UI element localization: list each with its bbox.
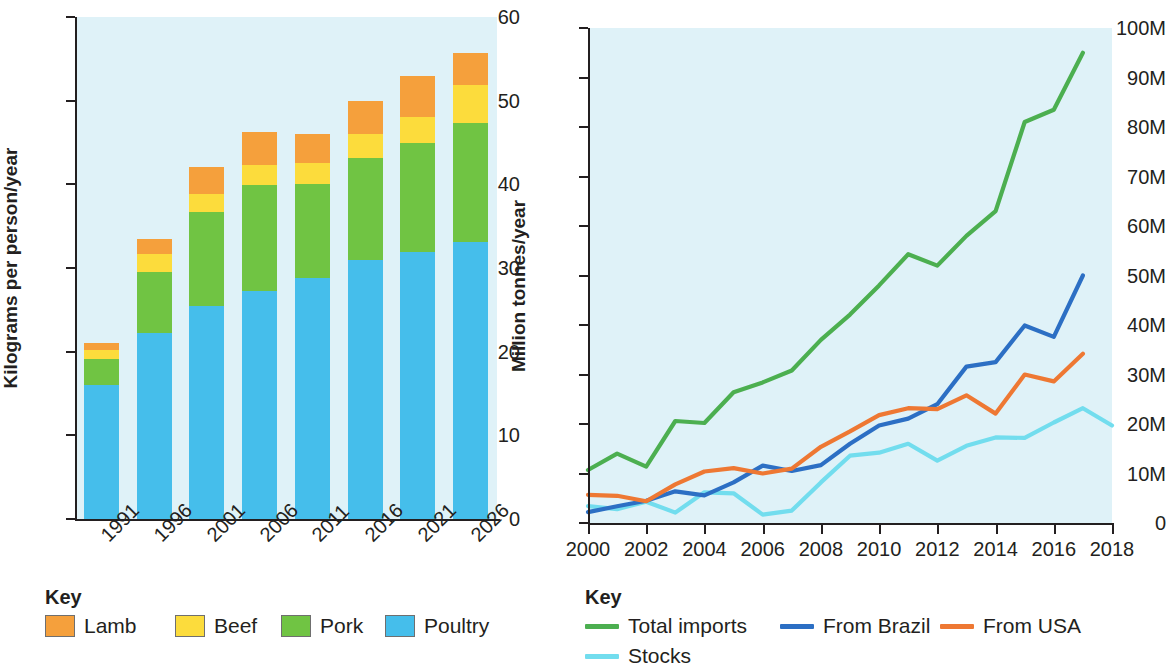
right-y-tick-label: 40M [1095, 315, 1166, 335]
right-x-tick-label: 2012 [915, 539, 960, 559]
right-y-tick [579, 522, 588, 524]
left-y-axis-line [75, 17, 77, 521]
legend-item-pork[interactable]: Pork [281, 614, 363, 638]
legend-item-poultry[interactable]: Poultry [385, 614, 489, 638]
legend-label: Pork [320, 614, 363, 638]
right-y-tick-label: 60M [1095, 216, 1166, 236]
legend-line-icon [585, 624, 619, 629]
bar-segment-lamb [348, 101, 383, 134]
legend-swatch-icon [175, 615, 205, 637]
bar-segment-beef [137, 254, 172, 272]
bar-segment-pork [189, 212, 224, 307]
bar-segment-poultry [400, 252, 435, 519]
right-y-tick [579, 126, 588, 128]
right-y-tick-label: 20M [1095, 414, 1166, 434]
legend-line-icon [780, 624, 814, 629]
bar-segment-beef [400, 117, 435, 143]
right-y-tick [579, 225, 588, 227]
right-x-axis-line [588, 523, 1114, 525]
right-y-axis-title: Million tonnes/year [508, 199, 530, 371]
bar-segment-poultry [84, 385, 119, 519]
legend-swatch-icon [45, 615, 75, 637]
bar-segment-lamb [400, 76, 435, 117]
right-y-tick [579, 324, 588, 326]
right-y-tick-label: 100M [1095, 18, 1166, 38]
right-x-tick-label: 2010 [857, 539, 902, 559]
left-y-tick [66, 16, 75, 18]
right-x-tick [588, 525, 590, 534]
right-y-tick-label: 30M [1095, 365, 1166, 385]
right-y-tick [579, 77, 588, 79]
right-y-tick [579, 473, 588, 475]
bar-segment-beef [348, 134, 383, 157]
right-x-tick-label: 2016 [1032, 539, 1077, 559]
right-x-tick-label: 2000 [566, 539, 611, 559]
right-key-title: Key [585, 586, 622, 609]
right-x-tick-label: 2014 [973, 539, 1018, 559]
bar-segment-lamb [84, 343, 119, 350]
bar-segment-beef [189, 194, 224, 212]
left-y-tick [66, 267, 75, 269]
bar-segment-poultry [137, 333, 172, 519]
right-y-tick-label: 80M [1095, 117, 1166, 137]
legend-item-from-brazil[interactable]: From Brazil [780, 614, 930, 638]
bar-segment-lamb [189, 167, 224, 194]
bar-segment-lamb [295, 134, 330, 162]
right-y-tick [579, 27, 588, 29]
legend-label: Stocks [628, 644, 691, 667]
left-key-title: Key [45, 586, 82, 609]
left-y-tick [66, 518, 75, 520]
legend-label: From USA [983, 614, 1081, 638]
right-x-tick [763, 525, 765, 534]
meat-consumption-chart: Kilograms per person/year 0102030405060 … [0, 0, 520, 655]
bar-segment-pork [400, 143, 435, 252]
bar-segment-pork [242, 185, 277, 290]
right-x-tick [821, 525, 823, 534]
legend-label: From Brazil [823, 614, 930, 638]
left-y-tick [66, 183, 75, 185]
bar-segment-poultry [295, 278, 330, 519]
legend-swatch-icon [385, 615, 415, 637]
legend-item-beef[interactable]: Beef [175, 614, 257, 638]
legend-label: Beef [214, 614, 257, 638]
right-x-tick-label: 2002 [624, 539, 669, 559]
left-y-tick [66, 434, 75, 436]
bar-segment-pork [137, 272, 172, 333]
legend-item-stocks[interactable]: Stocks [585, 644, 691, 667]
legend-item-lamb[interactable]: Lamb [45, 614, 137, 638]
bar-segment-pork [84, 359, 119, 385]
bar-segment-lamb [453, 53, 488, 85]
right-x-tick-label: 2006 [740, 539, 785, 559]
legend-label: Poultry [424, 614, 489, 638]
right-x-tick-label: 2008 [799, 539, 844, 559]
legend-line-icon [940, 624, 974, 629]
right-x-tick [879, 525, 881, 534]
right-x-tick [704, 525, 706, 534]
right-y-tick [579, 374, 588, 376]
legend-label: Total imports [628, 614, 747, 638]
left-y-axis-title: Kilograms per person/year [0, 148, 22, 389]
right-y-tick [579, 176, 588, 178]
left-y-tick [66, 351, 75, 353]
right-y-tick [579, 423, 588, 425]
right-y-tick [579, 275, 588, 277]
bar-segment-poultry [189, 306, 224, 519]
right-y-tick-label: 10M [1095, 464, 1166, 484]
legend-item-from-usa[interactable]: From USA [940, 614, 1081, 638]
bar-segment-beef [242, 165, 277, 185]
bar-segment-beef [295, 163, 330, 185]
bar-segment-pork [348, 158, 383, 260]
bar-segment-pork [295, 184, 330, 278]
right-y-axis-line [588, 28, 590, 525]
legend-item-total-imports[interactable]: Total imports [585, 614, 747, 638]
right-y-tick-label: 50M [1095, 266, 1166, 286]
bar-segment-poultry [348, 260, 383, 519]
bar-segment-lamb [137, 239, 172, 254]
right-x-tick-label: 2004 [682, 539, 727, 559]
left-y-tick [66, 100, 75, 102]
legend-line-icon [585, 654, 619, 659]
right-y-tick-label: 70M [1095, 167, 1166, 187]
bar-segment-lamb [242, 132, 277, 165]
right-x-tick [1054, 525, 1056, 534]
right-x-tick [996, 525, 998, 534]
